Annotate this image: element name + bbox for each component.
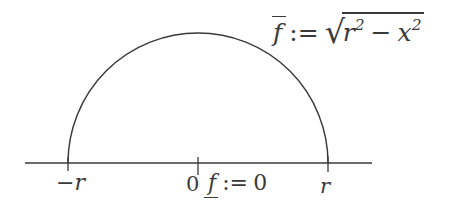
axis-label-positive-r: r [320,176,330,197]
upper-function-label: f:=√r2−x2 [272,14,424,46]
radicand-exponent-r: 2 [355,16,365,34]
axis-label-origin: 0 [186,174,199,195]
assign-operator: := [289,18,318,47]
radius-variable: r [74,170,85,195]
radicand-minus-operator: − [371,18,392,47]
radicand-term-x: x [398,18,412,47]
f-bar-symbol: f [272,20,283,45]
radicand-exponent-x: 2 [412,16,422,34]
f-underbar-symbol: f [207,172,217,194]
radicand-term-r: r [343,18,355,47]
radicand: r2−x2 [342,20,424,45]
lower-function-label: f:=0 [207,172,267,194]
assign-operator: := [222,170,248,195]
math-figure: f:=√r2−x2 −r 0 r f:=0 [0,0,469,216]
semicircle-arc [68,33,328,163]
axis-label-negative-r: −r [56,172,85,194]
minus-sign: − [56,170,74,195]
square-root-expression: √r2−x2 [325,14,424,46]
lower-function-value: 0 [253,170,267,195]
